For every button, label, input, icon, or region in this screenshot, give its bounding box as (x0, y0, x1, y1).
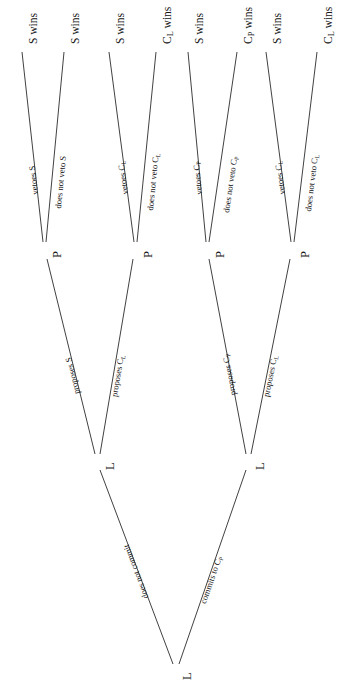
terminal-4-CL-wins: CL wins (162, 7, 176, 44)
edge-p2-vetoes-CL (109, 52, 134, 242)
edge-p1-vetoes-S (22, 52, 43, 242)
terminal-2-text: S wins (69, 13, 81, 44)
edge-label-vetoes-CP-p3-sub: P (195, 161, 202, 165)
terminal-3-text: S wins (114, 13, 126, 44)
edge-label-does-not-veto-CL-p4-sub: L (313, 154, 320, 159)
edge-label-vetoes-CP-p3-text: vetoes C (191, 164, 204, 195)
terminal-6-CP-wins: CP wins (243, 7, 257, 44)
terminal-5-text: S wins (193, 13, 205, 44)
edge-label-proposes-CL-right-sub: L (272, 355, 280, 360)
node-P-2: P (142, 251, 155, 258)
edge-p3-vetoes-CP (188, 52, 206, 242)
terminal-1-S-wins: S wins (28, 13, 40, 44)
edge-label-proposes-CP-sub: P (224, 353, 232, 358)
game-tree-figure: L L L P P P P does not commit commits to… (0, 0, 339, 692)
edge-p4-does-not-veto-CL (294, 52, 317, 242)
edge-label-does-not-veto-CL-p2-sub: L (154, 153, 161, 157)
terminal-7-text: S wins (271, 13, 283, 44)
node-L-right: L (254, 462, 267, 470)
edge-p2-does-not-veto-CL (137, 52, 156, 242)
terminal-8-suffix: wins (322, 7, 334, 32)
tree-edges (0, 0, 339, 692)
root-node-L: L (181, 672, 194, 680)
terminal-8-text: C (322, 36, 334, 44)
edge-p1-does-not-veto-S (46, 52, 64, 242)
terminal-2-S-wins: S wins (70, 13, 82, 44)
node-L-left: L (104, 462, 117, 470)
terminal-8-CL-wins: CL wins (323, 7, 337, 44)
terminal-6-sub: P (247, 32, 256, 37)
terminal-7-S-wins: S wins (272, 13, 284, 44)
node-P-1: P (51, 251, 64, 258)
node-P-4: P (299, 251, 312, 258)
terminal-4-suffix: wins (161, 7, 173, 32)
terminal-1-text: S wins (27, 13, 39, 44)
edge-p3-does-not-veto-CP (209, 52, 237, 242)
terminal-4-text: C (161, 36, 173, 44)
terminal-3-S-wins: S wins (115, 13, 127, 44)
edge-label-proposes-CL-left-sub: L (119, 355, 127, 360)
terminal-4-sub: L (166, 31, 175, 36)
node-P-3: P (214, 251, 227, 258)
terminal-8-sub: L (327, 31, 336, 36)
terminal-5-S-wins: S wins (194, 13, 206, 44)
edge-p4-vetoes-CL (266, 52, 291, 242)
terminal-6-suffix: wins (242, 7, 254, 32)
terminal-6-text: C (242, 36, 254, 44)
